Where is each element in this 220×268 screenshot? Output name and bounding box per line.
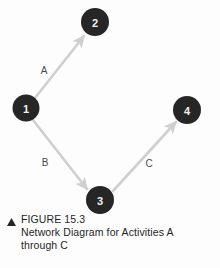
edge-c-line xyxy=(113,122,176,191)
edge-label-a: A xyxy=(41,65,48,76)
node-1: 1 xyxy=(13,95,40,122)
caption-line-3: through C xyxy=(21,239,216,252)
network-diagram: A B C 1 2 3 4 xyxy=(0,0,220,218)
node-2-label: 2 xyxy=(92,17,98,29)
caption-row: FIGURE 15.3 Network Diagram for Activiti… xyxy=(0,213,220,253)
node-4: 4 xyxy=(173,96,201,124)
edges-group xyxy=(33,36,176,191)
node-2: 2 xyxy=(81,8,109,36)
triangle-up-icon xyxy=(7,218,16,226)
node-3-label: 3 xyxy=(97,195,103,207)
edge-b-line xyxy=(33,120,87,189)
node-3: 3 xyxy=(86,186,114,214)
node-4-label: 4 xyxy=(184,105,191,117)
edge-label-c: C xyxy=(145,158,152,169)
caption-text: FIGURE 15.3 Network Diagram for Activiti… xyxy=(21,213,220,253)
edge-label-b: B xyxy=(42,157,49,168)
nodes-group: 1 2 3 4 xyxy=(13,8,202,214)
figure-container: A B C 1 2 3 4 xyxy=(0,0,220,268)
figure-caption: FIGURE 15.3 Network Diagram for Activiti… xyxy=(0,213,220,253)
caption-line-1: FIGURE 15.3 xyxy=(21,213,216,226)
node-1-label: 1 xyxy=(23,103,29,115)
caption-line-2: Network Diagram for Activities A xyxy=(21,226,216,239)
